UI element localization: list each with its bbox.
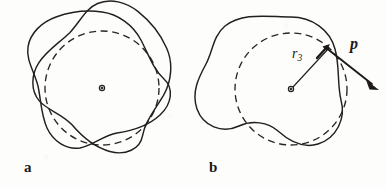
radius-r3-subscript: 3 xyxy=(297,53,302,63)
panel-a-label: a xyxy=(24,160,32,175)
panel-a-trefoil-curve-1 xyxy=(28,11,171,148)
panel-b-surface-normal-arrow xyxy=(317,44,330,58)
panel-b-label: b xyxy=(209,160,217,175)
panel-a-group xyxy=(11,0,203,178)
panel-a-center-dot-core xyxy=(101,87,103,89)
figure-root: a b r3 p xyxy=(0,0,387,187)
panel-b-trefoil-curve xyxy=(195,16,342,145)
panel-b-momentum-vector xyxy=(325,47,379,90)
radius-r3-label: r3 xyxy=(292,47,302,64)
panel-b-center-dot-core xyxy=(290,88,292,90)
figure-canvas xyxy=(0,0,387,187)
momentum-p-label: p xyxy=(350,36,358,52)
